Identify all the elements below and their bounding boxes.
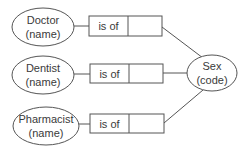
relation-box-3: is of xyxy=(90,114,164,133)
relation-box-2: is of xyxy=(90,64,163,83)
relation-box-3-label: is of xyxy=(99,118,120,130)
relation-box-1: is of xyxy=(89,16,162,36)
entity-doctor: Doctor (name) xyxy=(12,8,74,46)
entity-dentist: Dentist (name) xyxy=(12,56,74,94)
entity-doctor-attribute: (name) xyxy=(26,28,61,40)
relation-box-1-label: is of xyxy=(98,20,119,32)
diagram-canvas: Doctor (name) Dentist (name) Pharmacist … xyxy=(0,0,251,153)
entity-pharmacist: Pharmacist (name) xyxy=(13,107,79,145)
entity-sex-attribute: (code) xyxy=(196,74,227,86)
entity-sex: Sex (code) xyxy=(187,55,237,91)
connector-relation1-sex xyxy=(162,27,203,58)
relation-box-2-label: is of xyxy=(99,68,120,80)
entity-sex-name: Sex xyxy=(203,60,222,72)
entity-pharmacist-attribute: (name) xyxy=(29,127,64,139)
connector-relation3-sex xyxy=(164,90,203,123)
entity-pharmacist-name: Pharmacist xyxy=(18,113,73,125)
entity-dentist-name: Dentist xyxy=(26,62,60,74)
entity-dentist-attribute: (name) xyxy=(26,76,61,88)
entity-doctor-name: Doctor xyxy=(27,14,60,26)
